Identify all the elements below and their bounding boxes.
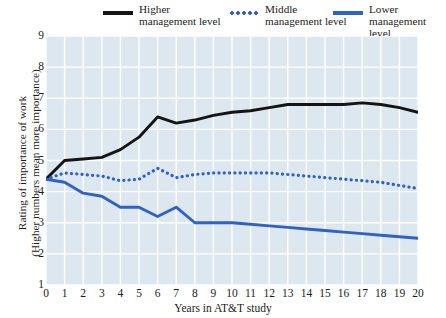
y-axis-label-host: Rating of importance of work (Higher num… — [0, 0, 30, 318]
plot-svg — [46, 36, 418, 285]
x-axis-label: Years in AT&T study — [0, 302, 446, 314]
plot-area — [46, 36, 418, 285]
legend-swatch-higher-icon — [103, 11, 133, 15]
y-axis-label: Rating of importance of work (Higher num… — [16, 38, 42, 288]
chart-root: Higher management level Middle managemen… — [0, 0, 446, 318]
legend-label-lower: Lower management level — [369, 4, 446, 39]
legend-item-higher: Higher management level — [103, 4, 221, 28]
legend-item-lower: Lower management level — [333, 4, 446, 39]
chart-legend: Higher management level Middle managemen… — [0, 4, 446, 36]
legend-swatch-lower-icon — [333, 11, 363, 15]
legend-item-middle: Middle management level — [229, 4, 347, 28]
legend-label-higher: Higher management level — [139, 4, 221, 28]
x-tick-label: 20 — [406, 288, 430, 300]
legend-swatch-middle-icon — [229, 11, 259, 15]
